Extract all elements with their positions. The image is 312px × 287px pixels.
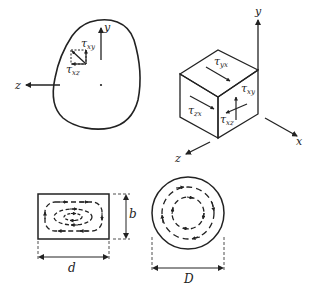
cube-y-axis-label: y (254, 5, 262, 18)
torsion-shear-stress-diagram: y z τxy τxz y x z τyx τzx (0, 0, 312, 287)
dimension-d-label: d (68, 261, 76, 275)
tau-xz-label: τxz (220, 113, 234, 127)
stress-element (71, 50, 86, 64)
tau-zx-label: τzx (188, 104, 202, 118)
cube-right-face (218, 70, 258, 138)
body-cross-section: y z τxy τxz (14, 20, 140, 129)
circle-outline (152, 177, 224, 249)
y-axis-label: y (103, 21, 111, 34)
circular-section: D (152, 177, 224, 286)
cube-left-face (180, 74, 218, 138)
cube-stress-element: y x z τyx τzx τxy τxz (174, 5, 303, 165)
tau-yx-label: τyx (214, 55, 228, 69)
cube-x-axis-arrow (265, 118, 297, 136)
dimension-D-label: D (183, 272, 194, 286)
cube-x-axis-label: x (296, 135, 303, 148)
cube-z-axis-label: z (174, 152, 181, 165)
tau-xy-label: τxy (81, 37, 96, 51)
tau-xy-label: τxy (241, 82, 256, 96)
dimension-b-label: b (129, 207, 137, 221)
tau-yx-arrow (206, 67, 230, 81)
centroid-dot (100, 84, 102, 86)
rectangular-section: b d (38, 194, 137, 275)
z-axis-label: z (14, 79, 21, 92)
cube-z-axis-arrow (186, 142, 210, 154)
rectangle-outline (38, 194, 109, 239)
tau-xz-label: τxz (66, 63, 80, 77)
